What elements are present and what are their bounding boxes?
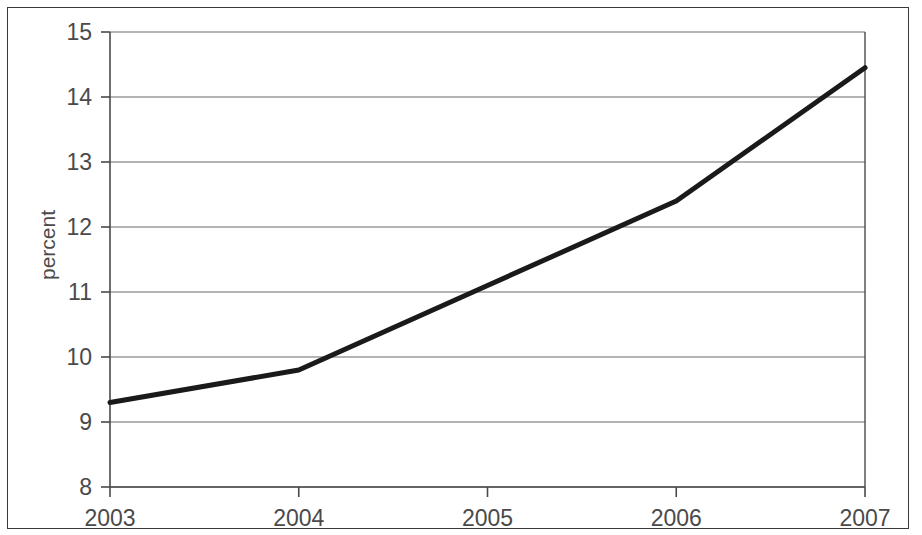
x-tick-label: 2005 (462, 507, 513, 530)
y-tick-label: 14 (34, 86, 92, 109)
x-tick-mark-group (110, 487, 865, 497)
x-tick-label: 2004 (273, 507, 324, 530)
y-tick-label: 10 (34, 346, 92, 369)
line-chart-canvas (0, 0, 922, 535)
y-tick-label: 13 (34, 151, 92, 174)
y-tick-label: 15 (34, 21, 92, 44)
y-axis-title: percent (36, 209, 60, 279)
x-tick-label: 2006 (651, 507, 702, 530)
data-line-percent (110, 68, 865, 403)
chart-figure: 1514131211109820032004200520062007 perce… (0, 0, 922, 535)
y-tick-label: 11 (34, 281, 92, 304)
y-tick-label: 8 (34, 476, 92, 499)
y-tick-mark-group (101, 32, 110, 487)
y-tick-label: 9 (34, 411, 92, 434)
x-tick-label: 2007 (839, 507, 890, 530)
x-tick-label: 2003 (84, 507, 135, 530)
gridline-group (110, 32, 865, 487)
